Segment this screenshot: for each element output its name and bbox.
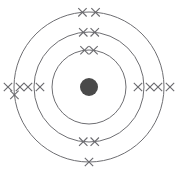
nucleus-group: [80, 78, 98, 96]
atom-diagram-canvas: [0, 0, 178, 173]
bohr-model-diagram: [0, 0, 178, 173]
nucleus: [80, 78, 98, 96]
